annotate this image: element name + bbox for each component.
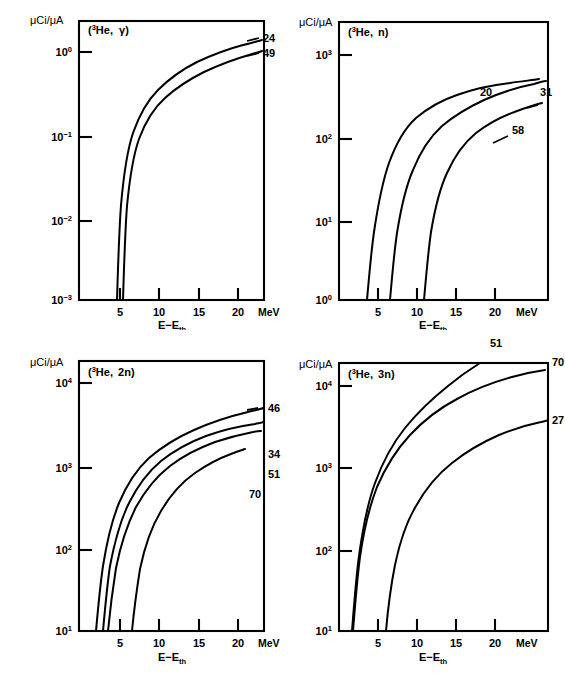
curve-70	[353, 370, 545, 631]
chart-svg-he-n: μCi/μA (3He, n) 103 102 101 100 5 10 15 …	[290, 0, 565, 330]
curve-label-49: 49	[263, 47, 275, 59]
x-tick-label-15: 15	[193, 637, 205, 649]
y-tick-label-1e2: 102	[316, 544, 332, 557]
y-tick-label-1e2: 102	[316, 132, 332, 145]
title-close-paren: )	[385, 26, 389, 38]
curve-51	[108, 431, 261, 631]
x-tick-label-5: 5	[117, 306, 123, 318]
x-tick-label-15: 15	[193, 306, 205, 318]
curve-label-20: 20	[480, 86, 492, 98]
y-axis-unit-label: μCi/μA	[30, 356, 64, 368]
x-tick-label-20: 20	[232, 637, 244, 649]
chart-panel-he-2n: μCi/μA (3He, 2n) 104 103 102 101 5 10 15…	[0, 330, 290, 684]
x-tick-label-20: 20	[489, 306, 501, 318]
chart-svg-he-3n: μCi/μA (3He, 3n) 104 103 102 101 5 10 15…	[290, 330, 565, 684]
x-axis-title: E−Eth	[158, 319, 187, 330]
curve-label-24: 24	[263, 32, 276, 44]
curve-label-70: 70	[552, 356, 564, 368]
x-tick-label-10: 10	[411, 637, 423, 649]
x-tick-label-5: 5	[117, 637, 123, 649]
y-tick-label-1e-2: 10−2	[51, 214, 72, 227]
curve-label-46: 46	[268, 402, 280, 414]
panel-title-he-n: (3He, n)	[348, 25, 389, 38]
x-axis-title: E−Eth	[158, 651, 187, 666]
curve-label-51: 51	[268, 468, 280, 480]
title-he-text: He,	[356, 368, 376, 380]
chart-panel-he-n: μCi/μA (3He, n) 103 102 101 100 5 10 15 …	[290, 0, 565, 330]
x-tick-label-10: 10	[153, 306, 165, 318]
curve-label-31: 31	[540, 86, 552, 98]
panel-title-he-3n: (3He, 3n)	[348, 367, 395, 380]
curve-31	[390, 81, 546, 300]
x-tick-label-5: 5	[375, 306, 381, 318]
panel-title-he-gamma: (3He, γ)	[88, 23, 129, 36]
chart-panel-he-3n: μCi/μA (3He, 3n) 104 103 102 101 5 10 15…	[290, 330, 565, 684]
curve-label-51: 51	[490, 337, 502, 349]
x-tick-label-20: 20	[489, 637, 501, 649]
x-axis-unit-label: MeV	[516, 306, 538, 318]
curve-label-70: 70	[249, 488, 261, 500]
x-axis-title: E−Eth	[419, 651, 448, 666]
curve-58-leader-2	[493, 136, 508, 143]
title-close-paren: )	[125, 24, 129, 36]
y-tick-label-1e-1: 10−1	[51, 130, 72, 143]
title-channel: 2n	[118, 366, 131, 378]
y-tick-label-1e0: 100	[316, 293, 332, 306]
title-he-text: He,	[96, 24, 116, 36]
svg-text:(3He, γ): (3He, γ)	[88, 23, 129, 36]
chart-svg-he-gamma: μCi/μA (3He, γ) 100 10−1 10−2 10−3	[0, 0, 290, 330]
x-tick-label-5: 5	[375, 637, 381, 649]
svg-text:(3He, 3n): (3He, 3n)	[348, 367, 395, 380]
y-tick-label-1e2: 102	[56, 543, 72, 556]
x-tick-label-10: 10	[411, 306, 423, 318]
figure-root: μCi/μA (3He, γ) 100 10−1 10−2 10−3	[0, 0, 565, 684]
curve-58	[424, 103, 542, 300]
y-axis-unit-label: μCi/μA	[299, 16, 333, 28]
x-axis-unit-label: MeV	[258, 637, 280, 649]
svg-text:(3He, n): (3He, n)	[348, 25, 389, 38]
curve-label-27: 27	[552, 414, 564, 426]
title-he-text: He,	[356, 26, 376, 38]
y-tick-label-1e0: 100	[56, 45, 72, 58]
curve-27	[386, 420, 548, 631]
y-tick-label-1e3: 103	[316, 461, 332, 474]
title-channel: 3n	[378, 368, 391, 380]
x-axis-unit-label: MeV	[258, 306, 280, 318]
x-tick-label-15: 15	[450, 306, 462, 318]
panel-title-he-2n: (3He, 2n)	[88, 365, 135, 378]
y-tick-label-1e3: 103	[316, 48, 332, 61]
y-tick-label-1e1: 101	[56, 624, 72, 637]
y-axis-unit-label: μCi/μA	[30, 14, 64, 26]
y-axis-unit-label: μCi/μA	[299, 358, 333, 370]
y-tick-label-1e4: 104	[56, 376, 73, 389]
curve-label-34: 34	[268, 448, 281, 460]
title-he-text: He,	[96, 366, 116, 378]
title-close-paren: )	[131, 366, 135, 378]
curve-49	[123, 51, 262, 300]
curve-51	[352, 363, 480, 631]
curve-70	[132, 449, 245, 631]
x-tick-label-15: 15	[450, 637, 462, 649]
y-tick-label-1e1: 101	[316, 624, 332, 637]
x-tick-label-10: 10	[153, 637, 165, 649]
chart-panel-he-gamma: μCi/μA (3He, γ) 100 10−1 10−2 10−3	[0, 0, 290, 330]
y-tick-label-1e4: 104	[316, 379, 333, 392]
svg-text:(3He, 2n): (3He, 2n)	[88, 365, 135, 378]
title-close-paren: )	[391, 368, 395, 380]
y-tick-label-1e-3: 10−3	[51, 293, 72, 306]
y-tick-label-1e3: 103	[56, 461, 72, 474]
x-axis-unit-label: MeV	[516, 637, 538, 649]
chart-svg-he-2n: μCi/μA (3He, 2n) 104 103 102 101 5 10 15…	[0, 330, 290, 684]
x-axis-title: E−Eth	[419, 319, 448, 330]
plot-frame	[79, 21, 264, 300]
y-tick-label-1e1: 101	[316, 215, 332, 228]
curve-label-58: 58	[512, 124, 524, 136]
x-tick-label-20: 20	[232, 306, 244, 318]
